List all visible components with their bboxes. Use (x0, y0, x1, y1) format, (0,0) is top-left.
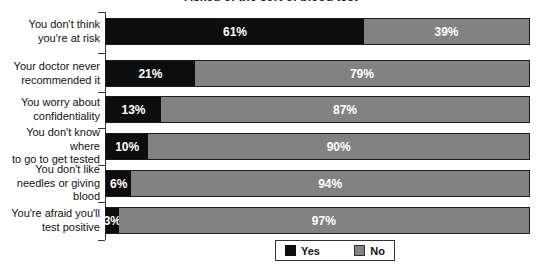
yes-segment: 61% (106, 19, 364, 44)
no-value-label: 94% (318, 177, 342, 191)
stacked-bar: 10%90% (105, 133, 530, 160)
yes-segment: 3% (106, 208, 119, 233)
no-value-label: 90% (327, 140, 351, 154)
no-segment: 39% (364, 19, 529, 44)
axis-tick (98, 240, 105, 241)
yes-segment: 6% (106, 171, 131, 196)
category-label: You don't like needles or giving blood (0, 170, 100, 197)
legend: Yes No (275, 240, 395, 261)
no-value-label: 39% (434, 25, 458, 39)
category-label: You don't think you're at risk (29, 18, 100, 45)
no-segment: 97% (119, 208, 529, 233)
axis-tick (98, 12, 105, 13)
no-value-label: 87% (333, 103, 357, 117)
chart-area: Asked of the sort of blood test You don'… (0, 0, 542, 273)
yes-segment: 21% (106, 61, 195, 86)
stacked-bar: 6%94% (105, 170, 530, 197)
category-label: Your doctor never recommended it (14, 60, 100, 87)
bar-row: Your doctor never recommended it21%79% (0, 60, 542, 87)
no-value-label: 79% (350, 67, 374, 81)
yes-value-label: 21% (138, 67, 162, 81)
no-segment: 90% (148, 134, 529, 159)
category-label: You're afraid you'll test positive (11, 207, 100, 234)
no-segment: 79% (195, 61, 529, 86)
category-label: You don't know where to go to get tested (0, 133, 100, 160)
yes-value-label: 10% (115, 140, 139, 154)
stacked-bar: 21%79% (105, 60, 530, 87)
bar-row: You don't know where to go to get tested… (0, 133, 542, 160)
yes-segment: 10% (106, 134, 148, 159)
legend-label-no: No (370, 245, 385, 257)
chart-title: Asked of the sort of blood test (0, 0, 542, 4)
legend-entry-no: No (354, 245, 385, 257)
y-axis-line (105, 12, 106, 240)
bar-row: You're afraid you'll test positive3%97% (0, 207, 542, 234)
legend-entry-yes: Yes (285, 245, 320, 257)
chart-canvas: { "chart_data": { "type": "bar", "orient… (0, 0, 542, 273)
no-swatch-icon (354, 245, 365, 256)
yes-value-label: 6% (110, 177, 127, 191)
stacked-bar: 61%39% (105, 18, 530, 45)
no-segment: 87% (161, 97, 529, 122)
no-value-label: 97% (312, 214, 336, 228)
bar-row: You don't think you're at risk61%39% (0, 18, 542, 45)
category-label: You worry about confidentiality (21, 96, 100, 123)
yes-value-label: 61% (223, 25, 247, 39)
stacked-bar: 13%87% (105, 96, 530, 123)
axis-tick (98, 92, 105, 93)
axis-tick (98, 53, 105, 54)
stacked-bar: 3%97% (105, 207, 530, 234)
bar-row: You worry about confidentiality13%87% (0, 96, 542, 123)
yes-segment: 13% (106, 97, 161, 122)
yes-swatch-icon (285, 245, 296, 256)
bar-row: You don't like needles or giving blood6%… (0, 170, 542, 197)
legend-label-yes: Yes (301, 245, 320, 257)
yes-value-label: 13% (121, 103, 145, 117)
no-segment: 94% (131, 171, 529, 196)
